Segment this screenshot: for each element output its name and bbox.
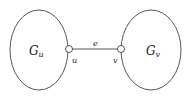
subgraph-label-g-u: Gu: [29, 44, 44, 59]
edge-label-e: e: [93, 39, 98, 48]
subgraph-label-g-v: Gv: [146, 44, 161, 59]
graph-diagram: Gu Gv e u v: [0, 0, 190, 99]
node-u: [66, 46, 73, 53]
node-v: [118, 46, 125, 53]
node-label-v: v: [113, 56, 118, 65]
node-label-u: u: [72, 56, 77, 65]
